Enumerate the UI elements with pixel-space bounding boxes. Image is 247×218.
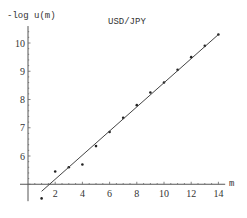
- data-point: [81, 163, 84, 166]
- axes: [20, 26, 225, 201]
- x-tick-label: 8: [134, 188, 139, 199]
- x-tick-label: 4: [80, 188, 85, 199]
- y-tick-label: 8: [20, 94, 25, 105]
- x-tick-label: 6: [107, 188, 112, 199]
- x-tick-label: 14: [213, 188, 223, 199]
- x-tick-label: 12: [186, 188, 196, 199]
- chart-title: USD/JPY: [108, 17, 146, 27]
- data-series: [40, 33, 219, 199]
- y-tick-label: 9: [20, 66, 25, 77]
- data-point: [95, 145, 98, 148]
- y-tick-label: 7: [20, 122, 25, 133]
- data-point: [40, 197, 43, 200]
- y-tick-label: 6: [20, 151, 25, 162]
- x-axis-label: m: [229, 179, 234, 189]
- data-point: [149, 91, 152, 94]
- x-tick-label: 10: [159, 188, 169, 199]
- x-tick-label: 2: [53, 188, 58, 199]
- tick-labels: 2468101214678910: [15, 38, 223, 200]
- chart: -log u(m) USD/JPY m 2468101214678910: [0, 0, 247, 218]
- data-point: [54, 170, 57, 173]
- y-tick-label: 10: [15, 38, 25, 49]
- y-axis-label: -log u(m): [7, 11, 56, 21]
- fit-line: [42, 35, 219, 192]
